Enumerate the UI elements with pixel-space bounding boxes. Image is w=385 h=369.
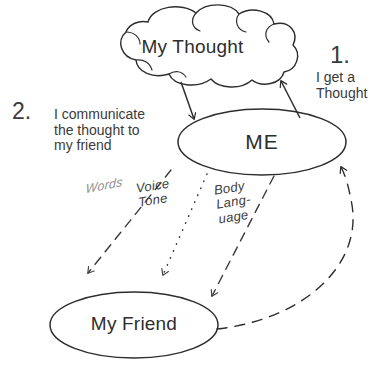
- channel-label-body-language: Body Lang- uage: [213, 179, 254, 227]
- step-1-description: I get a Thought: [316, 70, 367, 101]
- me-node-label: ME: [178, 130, 346, 154]
- step-2-description: I communicate the thought to my friend: [54, 107, 145, 154]
- step-2-number: 2.: [12, 99, 31, 125]
- arrow-thought-to-me: [181, 82, 194, 119]
- channel-label-voice-tone: Voice Tone: [135, 177, 173, 210]
- friend-node-label: My Friend: [50, 313, 218, 335]
- communication-diagram: My Thought ME My Friend 1. I get a Thoug…: [0, 0, 385, 369]
- thought-node-label: My Thought: [0, 36, 385, 58]
- step-1-number: 1.: [330, 42, 350, 69]
